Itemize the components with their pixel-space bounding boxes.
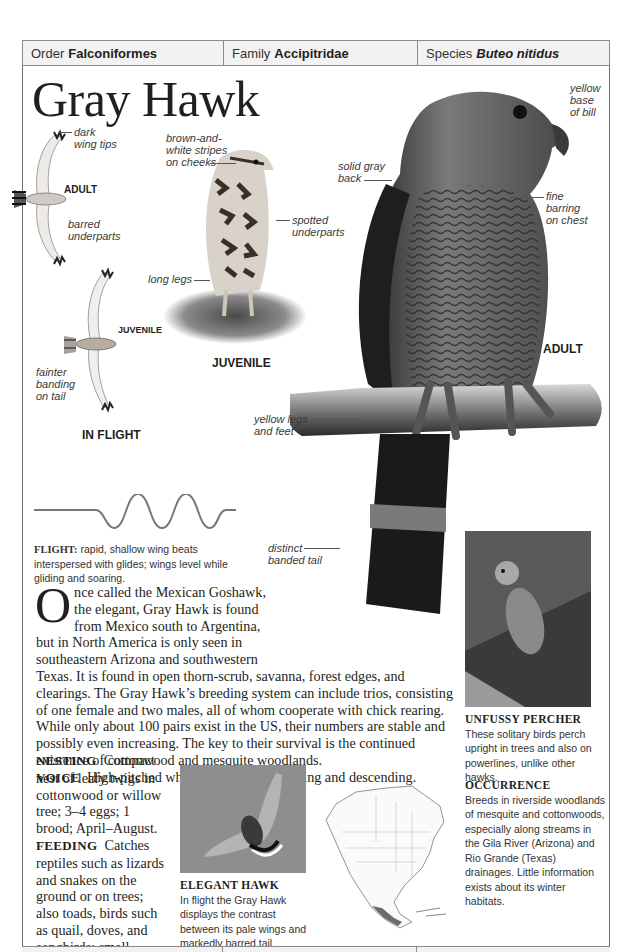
perched-juvenile-label: JUVENILE [212, 356, 271, 370]
flight-adult-label: ADULT [64, 184, 97, 195]
elegant-hawk-photo [180, 765, 306, 873]
bottom-bar [22, 946, 610, 952]
family-value: Accipitridae [274, 46, 348, 61]
annotation-fainter-banding: fainterbandingon tail [36, 366, 75, 402]
juvenile-perched-photo [160, 140, 310, 350]
taxonomy-bar: Order Falconiformes Family Accipitridae … [22, 40, 610, 66]
perched-adult-label: ADULT [543, 342, 583, 356]
species-value: Buteo nitidus [476, 46, 559, 61]
taxonomy-order: Order Falconiformes [23, 41, 224, 65]
annotation-barred-underparts: barredunderparts [68, 218, 121, 242]
annotation-long-legs: long legs [148, 273, 192, 285]
nesting-feeding-column: NESTING Compact nest of leafy twigs in c… [36, 752, 168, 952]
taxonomy-family: Family Accipitridae [224, 41, 418, 65]
annotation-distinct-banded-tail: distinctbanded tail [268, 542, 322, 566]
annotation-dark-wing-tips: darkwing tips [74, 126, 117, 150]
unfussy-percher-caption: UNFUSSY PERCHER These solitary birds per… [465, 712, 607, 785]
taxonomy-species: Species Buteo nitidus [418, 41, 609, 65]
page-title: Gray Hawk [32, 70, 259, 128]
in-flight-label: IN FLIGHT [82, 428, 141, 442]
occurrence-section: OCCURRENCE Breeds in riverside woodlands… [465, 778, 607, 909]
unfussy-percher-photo [465, 531, 591, 707]
adult-flight-illustration [8, 128, 78, 268]
nesting-section: NESTING Compact nest of leafy twigs in c… [36, 752, 168, 837]
annotation-yellow-base-bill: yellowbaseof bill [570, 82, 601, 118]
range-map [316, 782, 456, 932]
elegant-hawk-caption: ELEGANT HAWK In flight the Gray Hawk dis… [180, 878, 315, 951]
dropcap: O [35, 586, 71, 624]
order-value: Falconiformes [68, 46, 157, 61]
annotation-fine-barring: finebarringon chest [546, 190, 588, 226]
flight-juvenile-label: JUVENILE [118, 325, 162, 335]
annotation-yellow-legs: yellow legsand feet [254, 413, 308, 437]
feeding-section: FEEDING Catches reptiles such as lizards… [36, 837, 168, 952]
flight-pattern-diagram [34, 494, 236, 534]
